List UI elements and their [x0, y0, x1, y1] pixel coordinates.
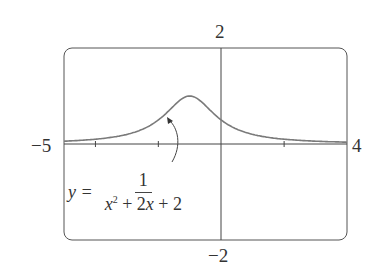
chart-canvas	[0, 0, 388, 276]
curve	[64, 96, 347, 142]
numerator: 1	[135, 170, 152, 193]
function-label: y = 1 x2 + 2x + 2	[68, 170, 182, 215]
fraction: 1 x2 + 2x + 2	[105, 170, 182, 215]
y-min-label: −2	[208, 246, 228, 265]
y-max-label: 2	[215, 22, 225, 41]
annotation-arrow	[169, 120, 178, 162]
denominator: x2 + 2x + 2	[105, 193, 182, 215]
x-max-label: 4	[352, 136, 362, 155]
x-min-label: −5	[31, 136, 51, 155]
equation-lhs: y =	[68, 182, 93, 203]
